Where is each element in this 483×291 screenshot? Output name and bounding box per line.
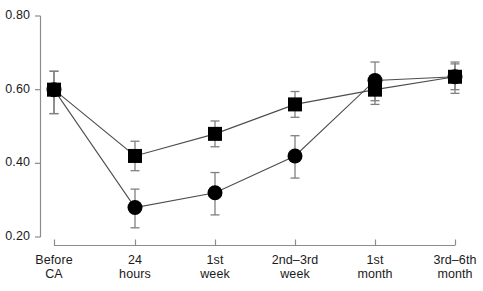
y-tick-label: 0.20: [0, 229, 30, 243]
axes: [41, 16, 456, 246]
data-point-circle: [288, 148, 303, 163]
data-point-square: [208, 127, 222, 141]
series-line-square: [54, 77, 455, 156]
x-axis-ticks: [55, 240, 456, 246]
data-point-square: [128, 149, 142, 163]
data-point-circle: [448, 69, 463, 84]
series-lines: [54, 77, 455, 208]
data-point-square: [288, 97, 302, 111]
y-tick-label: 0.40: [0, 155, 30, 169]
data-markers: [47, 69, 463, 215]
x-tick-label-line1: 3rd–6th: [405, 253, 483, 267]
series-line-circle: [54, 77, 455, 208]
data-point-circle: [208, 185, 223, 200]
y-tick-label: 0.60: [0, 82, 30, 96]
data-point-circle: [368, 73, 383, 88]
y-axis-ticks: [35, 16, 41, 237]
plot-area: [0, 0, 483, 291]
x-tick-label: 3rd–6thmonth: [405, 253, 483, 281]
data-point-circle: [128, 200, 143, 215]
y-tick-label: 0.80: [0, 8, 30, 22]
error-bars: [50, 62, 460, 228]
x-tick-label-line2: month: [405, 267, 483, 281]
line-chart: 0.800.600.400.20 BeforeCA24hours1stweek2…: [0, 0, 483, 291]
data-point-circle: [47, 82, 62, 97]
